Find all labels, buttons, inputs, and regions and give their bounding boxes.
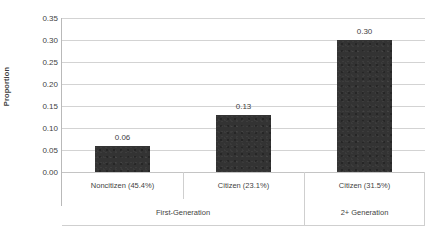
y-axis-title: Proportion [0, 0, 14, 172]
gridline [62, 18, 425, 19]
bar-value-label: 0.13 [236, 102, 252, 111]
y-axis-tick-label: 0.05 [16, 146, 58, 155]
y-axis-tick-label: 0.10 [16, 124, 58, 133]
group-separator [304, 172, 305, 226]
category-separator [183, 172, 184, 199]
category-label: Citizen (23.1%) [183, 172, 304, 199]
category-label: Noncitizen (45.4%) [62, 172, 183, 199]
category-axis: Noncitizen (45.4%)Citizen (23.1%)Citizen… [62, 172, 425, 226]
y-axis-tick-labels: 0.350.300.250.200.150.100.050.00 [14, 0, 58, 226]
bar-value-label: 0.30 [357, 27, 373, 36]
y-axis-tick-label: 0.35 [16, 14, 58, 23]
plot-area: 0.060.130.30 [62, 18, 425, 172]
y-axis-title-label: Proportion [3, 66, 12, 105]
bar [337, 40, 392, 172]
y-axis-tick-label: 0.25 [16, 58, 58, 67]
bar-value-label: 0.06 [115, 133, 131, 142]
bar [216, 115, 271, 172]
y-axis-tick-label: 0.00 [16, 168, 58, 177]
y-axis-tick-label: 0.20 [16, 80, 58, 89]
category-label: Citizen (31.5%) [304, 172, 425, 199]
y-axis-tick-label: 0.15 [16, 102, 58, 111]
bar [95, 146, 150, 172]
group-label: First-Generation [62, 199, 304, 226]
y-axis-tick-label: 0.30 [16, 36, 58, 45]
group-label: 2+ Generation [304, 199, 425, 226]
bar-chart: Proportion 0.350.300.250.200.150.100.050… [0, 0, 435, 226]
